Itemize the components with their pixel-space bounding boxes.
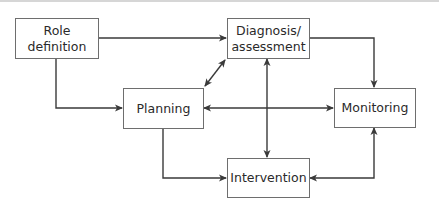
node-diagnosis-assessment: Diagnosis/ assessment	[227, 18, 310, 59]
node-role-definition: Role definition	[15, 18, 99, 59]
node-monitoring: Monitoring	[334, 88, 416, 128]
node-intervention: Intervention	[227, 158, 310, 198]
edge-planning-to-intervention	[163, 128, 226, 178]
edge-role-to-planning	[56, 58, 122, 108]
node-planning: Planning	[123, 88, 204, 129]
edge-diagnosis-to-monitoring	[309, 38, 374, 87]
node-label: Planning	[137, 101, 191, 117]
node-label: Diagnosis/ assessment	[231, 23, 305, 55]
edge-diagnosis-planning	[205, 60, 225, 86]
node-label: Monitoring	[342, 100, 409, 116]
edge-intervention-monitoring	[310, 128, 374, 178]
node-label: Intervention	[230, 170, 306, 186]
node-label: Role definition	[28, 23, 87, 55]
